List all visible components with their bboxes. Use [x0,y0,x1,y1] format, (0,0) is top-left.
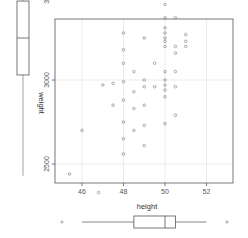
data-point [112,82,115,85]
height-box [134,216,176,228]
data-point [153,62,156,65]
weight-boxplot [17,0,29,176]
x-tick-label: 50 [161,188,169,195]
y-axis-title: weight [37,91,46,115]
height-boxplot [61,216,228,228]
data-point [112,104,115,107]
y-tick-label: 2500 [43,156,50,172]
y-tick-label: 3000 [43,72,50,88]
data-point [143,85,146,88]
grid-lines [55,0,233,183]
data-point [184,40,187,43]
data-point [174,85,177,88]
data-point [174,45,177,48]
data-point [97,191,100,194]
x-axis-title: height [137,202,158,211]
x-tick-label: 48 [120,188,128,195]
data-point [68,173,71,176]
data-point [174,52,177,55]
scatter-with-marginal-boxplots: 46485052 2500300035004000 height weight [0,0,248,238]
data-point [184,33,187,36]
data-point [174,114,177,117]
y-axis-ticks: 2500300035004000 [43,0,55,172]
data-point [184,45,187,48]
height-outlier [226,221,228,223]
data-point [143,124,146,127]
x-axis-ticks: 46485052 [78,183,210,195]
data-point [143,37,146,40]
data-point [174,70,177,73]
data-point [133,107,136,110]
data-point [133,70,136,73]
x-tick-label: 52 [203,188,211,195]
data-point [143,104,146,107]
x-tick-label: 46 [78,188,86,195]
data-point [133,129,136,132]
data-point [101,84,104,87]
data-point [164,3,167,6]
scatter-points [68,0,228,194]
height-outlier [61,221,63,223]
data-point [143,144,146,147]
y-tick-label: 3500 [43,0,50,4]
data-point [133,90,136,93]
data-point [153,85,156,88]
